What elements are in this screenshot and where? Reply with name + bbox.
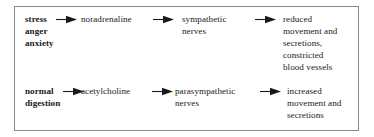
stage-sympathetic-nerves: sympathetic nerves [182, 13, 260, 37]
right-arrow-icon [152, 87, 173, 96]
right-arrow-icon [153, 15, 174, 24]
stage-sympathetic-effect: reduced movement and secretions, constri… [283, 13, 361, 73]
right-arrow-icon [56, 15, 77, 24]
stage-parasympathetic-nerves: parasympathetic nerves [175, 85, 267, 109]
right-arrow-icon [260, 87, 281, 96]
figure-root: stress anger anxiety noradrenaline sympa… [0, 0, 374, 137]
stage-parasympathetic-effect: increased movement and secretions [287, 85, 361, 121]
diagram-border-box: stress anger anxiety noradrenaline sympa… [14, 6, 359, 131]
right-arrow-icon [255, 15, 276, 24]
